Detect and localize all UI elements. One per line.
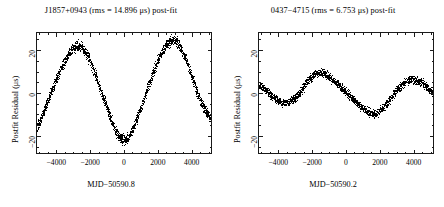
x-tick (116, 32, 117, 35)
x-tick (149, 152, 150, 155)
y-tick (208, 50, 213, 51)
y-tick (208, 93, 213, 94)
y-tick (36, 61, 39, 62)
x-tick (397, 32, 398, 35)
x-tick (422, 152, 423, 155)
x-tick (405, 152, 406, 155)
x-tick (116, 152, 117, 155)
x-tick (200, 152, 201, 155)
x-tick (82, 32, 83, 35)
x-tick (287, 152, 288, 155)
x-tick (363, 152, 364, 155)
x-tick (329, 152, 330, 155)
y-tick (258, 104, 261, 105)
x-tick (431, 32, 432, 35)
x-tick (304, 152, 305, 155)
x-tick (312, 150, 313, 155)
x-tick (192, 150, 193, 155)
x-tick (414, 32, 415, 37)
x-tick (346, 150, 347, 155)
y-tick (258, 82, 261, 83)
x-tick (287, 32, 288, 35)
y-tick (36, 125, 39, 126)
x-tick (414, 150, 415, 155)
x-tick-label: 4000 (184, 158, 199, 167)
y-tick (432, 61, 435, 62)
y-tick (36, 72, 39, 73)
y-tick (258, 93, 263, 94)
x-tick (405, 32, 406, 35)
y-axis-label-left: Postfit Residual (μs) (11, 76, 20, 143)
y-tick (210, 125, 213, 126)
y-tick (36, 82, 39, 83)
x-tick-label: 0 (122, 158, 126, 167)
x-axis-label-left: MJD−50590.8 (0, 180, 222, 189)
y-tick (258, 136, 263, 137)
x-tick (65, 152, 66, 155)
y-tick (208, 136, 213, 137)
y-tick (36, 93, 41, 94)
y-tick (210, 61, 213, 62)
y-axis-label-right: Postfit Residual (μs) (233, 76, 242, 143)
y-tick (36, 136, 41, 137)
x-tick (338, 32, 339, 35)
x-tick (209, 32, 210, 35)
y-tick (258, 61, 261, 62)
x-tick-label: 2000 (372, 158, 387, 167)
y-tick (258, 125, 261, 126)
x-tick (107, 32, 108, 35)
x-tick-label: 4000 (406, 158, 421, 167)
x-tick (56, 32, 57, 37)
x-tick (338, 152, 339, 155)
x-tick (295, 32, 296, 35)
x-tick-label: −2000 (80, 158, 99, 167)
x-tick-label: −4000 (269, 158, 288, 167)
x-tick (39, 152, 40, 155)
x-tick (183, 152, 184, 155)
x-tick (363, 32, 364, 35)
x-tick (141, 152, 142, 155)
y-tick (36, 39, 39, 40)
y-tick (36, 114, 39, 115)
plot-frame-left (36, 32, 212, 154)
y-tick (432, 114, 435, 115)
x-tick (380, 32, 381, 37)
x-tick (371, 152, 372, 155)
x-tick (158, 32, 159, 37)
x-tick (312, 32, 313, 37)
x-tick (304, 32, 305, 35)
y-tick (210, 104, 213, 105)
panel-right-title: 0437−4715 (rms = 6.753 μs) post-fit (222, 6, 444, 15)
y-tick (210, 39, 213, 40)
x-tick (124, 32, 125, 37)
residual-series-left (37, 33, 211, 153)
y-tick (210, 114, 213, 115)
x-tick (166, 152, 167, 155)
x-tick (354, 32, 355, 35)
y-tick (258, 72, 261, 73)
y-tick-label: 0 (28, 93, 37, 97)
y-tick (258, 114, 261, 115)
x-tick (132, 32, 133, 35)
x-tick (261, 32, 262, 35)
y-tick (432, 104, 435, 105)
x-tick (354, 152, 355, 155)
x-tick (380, 150, 381, 155)
plot-frame-right (258, 32, 434, 154)
x-tick (39, 32, 40, 35)
y-tick (432, 125, 435, 126)
x-tick (183, 32, 184, 35)
y-tick (210, 82, 213, 83)
x-tick (132, 152, 133, 155)
x-tick (192, 32, 193, 37)
x-tick (124, 150, 125, 155)
x-tick-label: −4000 (47, 158, 66, 167)
plot-panel-right: 0437−4715 (rms = 6.753 μs) post-fit Post… (222, 0, 444, 207)
plot-area-left (37, 33, 211, 153)
y-tick-label: −20 (250, 136, 259, 148)
x-tick (175, 32, 176, 35)
x-axis-label-right: MJD−50590.2 (222, 180, 444, 189)
x-tick (270, 152, 271, 155)
x-tick (388, 152, 389, 155)
x-tick (278, 32, 279, 37)
